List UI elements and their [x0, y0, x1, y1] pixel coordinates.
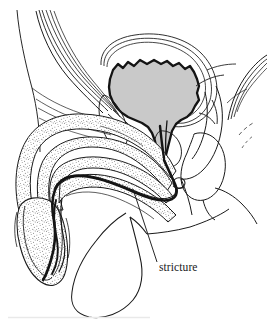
glans-penis [10, 190, 80, 295]
anatomy-illustration: stricture [0, 0, 267, 321]
scrotum [72, 213, 147, 318]
stricture-label: stricture [159, 261, 198, 273]
urethral-stricture-figure: stricture [0, 0, 267, 321]
